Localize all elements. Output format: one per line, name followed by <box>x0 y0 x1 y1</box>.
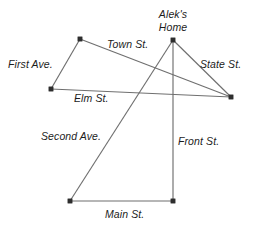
map-canvas <box>0 0 254 227</box>
place-label-line1: Alek's <box>133 8 213 21</box>
intersection-node-home <box>171 38 175 42</box>
intersection-node-left <box>49 87 53 91</box>
place-label-line2: Home <box>133 21 213 34</box>
street-line-first-ave <box>51 39 80 89</box>
intersection-node-top-left <box>78 37 82 41</box>
place-label-aleks-home: Alek'sHome <box>133 8 213 33</box>
street-label-town-st: Town St. <box>107 38 148 51</box>
street-map-figure: Town St.First Ave.State St.Elm St.Second… <box>0 0 254 227</box>
street-label-second-ave: Second Ave. <box>41 130 101 143</box>
street-label-elm-st: Elm St. <box>74 92 109 105</box>
street-label-state-st: State St. <box>200 58 241 71</box>
street-label-front-st: Front St. <box>178 135 219 148</box>
intersection-node-bottom-right <box>171 199 175 203</box>
street-line-second-ave <box>70 40 173 201</box>
intersection-node-bottom-left <box>68 199 72 203</box>
intersection-node-right <box>229 95 233 99</box>
street-label-first-ave: First Ave. <box>8 58 53 71</box>
street-label-main-st: Main St. <box>105 208 144 221</box>
